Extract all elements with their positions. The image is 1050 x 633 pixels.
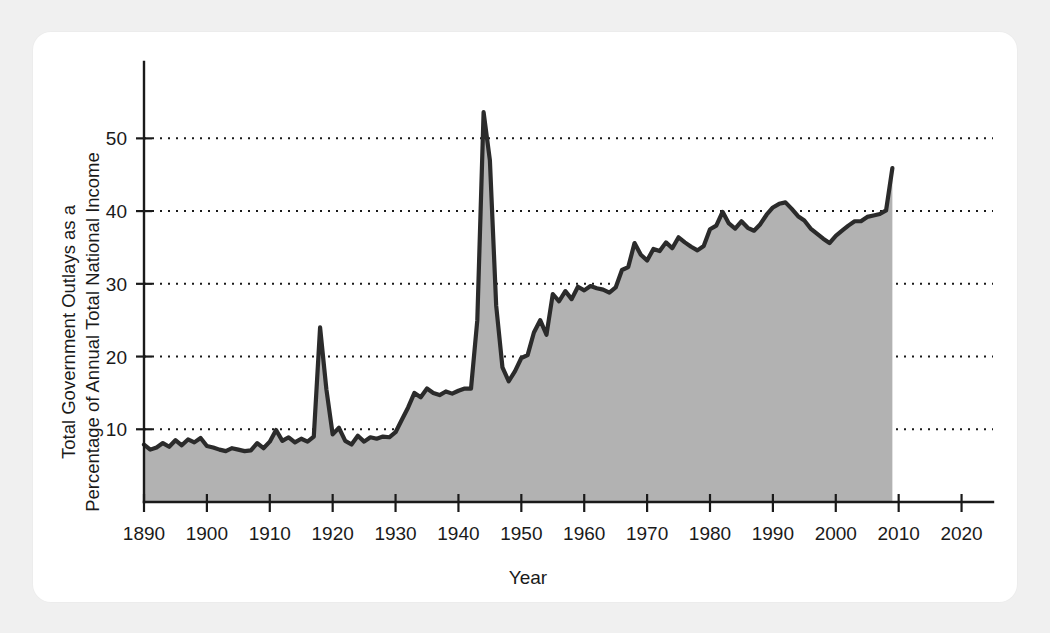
x-tick-label-1940: 1940 <box>437 523 479 544</box>
y-axis-title-line1: Total Government Outlays as a <box>58 204 79 459</box>
x-tick-label-1930: 1930 <box>374 523 416 544</box>
x-tick-label-1990: 1990 <box>752 523 794 544</box>
x-tick-label-1910: 1910 <box>249 523 291 544</box>
y-axis-title: Total Government Outlays as a Percentage… <box>58 152 103 512</box>
x-tick-label-1890: 1890 <box>123 523 165 544</box>
x-tick-label-1960: 1960 <box>563 523 605 544</box>
x-tick-label-2010: 2010 <box>878 523 920 544</box>
x-tick-label-1980: 1980 <box>689 523 731 544</box>
x-tick-label-1970: 1970 <box>626 523 668 544</box>
figure-card: Total Government Outlays as a Percentage… <box>33 32 1017 602</box>
x-tick-label-2020: 2020 <box>940 523 982 544</box>
x-tick-label-1950: 1950 <box>500 523 542 544</box>
x-tick-label-1920: 1920 <box>312 523 354 544</box>
y-tick-label-20: 20 <box>106 347 127 368</box>
y-tick-label-50: 50 <box>106 128 127 149</box>
plot-wrapper: Total Government Outlays as a Percentage… <box>33 32 1017 602</box>
y-tick-label-40: 40 <box>106 201 127 222</box>
figure-page: Total Government Outlays as a Percentage… <box>0 0 1050 633</box>
y-tick-label-10: 10 <box>106 419 127 440</box>
y-axis-title-line2: Percentage of Annual Total National Inco… <box>82 152 103 512</box>
x-axis-title: Year <box>509 567 548 588</box>
x-tick-label-2000: 2000 <box>815 523 857 544</box>
line-area-chart: Total Government Outlays as a Percentage… <box>33 32 1017 602</box>
x-tick-label-1900: 1900 <box>186 523 228 544</box>
y-tick-label-30: 30 <box>106 274 127 295</box>
